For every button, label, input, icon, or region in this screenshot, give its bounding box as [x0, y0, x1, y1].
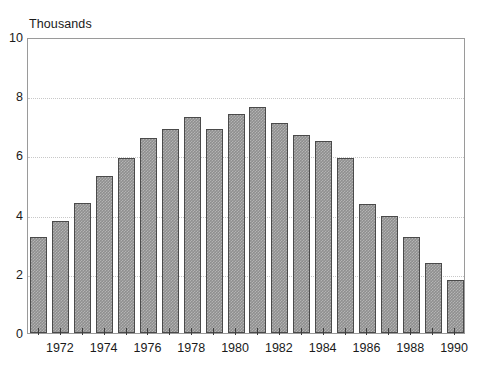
- x-axis-tick-mark: [38, 328, 39, 335]
- bar: [293, 135, 310, 333]
- y-axis-tick-label-group: 0246810: [0, 0, 23, 366]
- x-axis-tick-mark: [191, 328, 192, 335]
- x-axis-tick-label: 1986: [353, 341, 381, 355]
- x-axis-tick-label: 1978: [177, 341, 205, 355]
- bar: [74, 203, 91, 333]
- bar: [206, 129, 223, 333]
- x-axis-tick-label: 1972: [46, 341, 74, 355]
- bar: [96, 176, 113, 333]
- bar: [228, 114, 245, 333]
- x-axis-tick-mark: [410, 328, 411, 335]
- x-axis-tick-mark: [126, 328, 127, 335]
- bar: [184, 117, 201, 333]
- bar: [447, 280, 464, 333]
- x-axis-tick-mark: [345, 328, 346, 335]
- x-axis-tick-mark: [432, 328, 433, 335]
- bar: [30, 237, 47, 333]
- y-axis-tick-label: 0: [1, 327, 23, 341]
- bar: [403, 237, 420, 333]
- x-axis-tick-label: 1980: [221, 341, 249, 355]
- x-axis-tick-mark: [82, 328, 83, 335]
- bar: [359, 204, 376, 333]
- y-axis-unit-label: Thousands: [29, 17, 92, 31]
- bar: [337, 158, 354, 333]
- y-axis-tick-label: 10: [1, 31, 23, 45]
- x-axis-tick-mark: [257, 328, 258, 335]
- y-axis-tick-label: 2: [1, 268, 23, 282]
- x-axis-tick-label: 1988: [396, 341, 424, 355]
- x-axis-tick-mark: [366, 328, 367, 335]
- x-axis-tick-mark: [213, 328, 214, 335]
- x-axis-tick-mark: [279, 328, 280, 335]
- x-axis-tick-mark: [235, 328, 236, 335]
- x-axis-tick-label: 1990: [440, 341, 468, 355]
- bar-chart: Thousands 0246810 1972197419761978198019…: [0, 0, 492, 366]
- y-axis-tick-label: 4: [1, 209, 23, 223]
- y-axis-tick-label: 6: [1, 149, 23, 163]
- x-axis-tick-mark: [169, 328, 170, 335]
- x-axis-tick-label: 1974: [90, 341, 118, 355]
- x-axis-tick-label: 1976: [134, 341, 162, 355]
- bar: [52, 221, 69, 333]
- x-axis-tick-mark: [301, 328, 302, 335]
- plot-area: [27, 38, 465, 334]
- x-axis-tick-mark: [60, 328, 61, 335]
- x-axis-tick-label: 1984: [309, 341, 337, 355]
- bar: [315, 141, 332, 333]
- bar: [249, 107, 266, 333]
- x-axis-tick-mark: [104, 328, 105, 335]
- x-axis-tick-mark: [323, 328, 324, 335]
- bar: [425, 263, 442, 333]
- bar: [271, 123, 288, 333]
- x-axis-tick-mark: [454, 328, 455, 335]
- x-axis-tick-mark: [147, 328, 148, 335]
- bar: [162, 129, 179, 333]
- x-axis-tick-mark: [388, 328, 389, 335]
- bar: [381, 216, 398, 333]
- bar: [118, 158, 135, 333]
- x-axis-tick-label: 1982: [265, 341, 293, 355]
- bar: [140, 138, 157, 333]
- bar-series: [28, 39, 464, 333]
- y-axis-tick-label: 8: [1, 90, 23, 104]
